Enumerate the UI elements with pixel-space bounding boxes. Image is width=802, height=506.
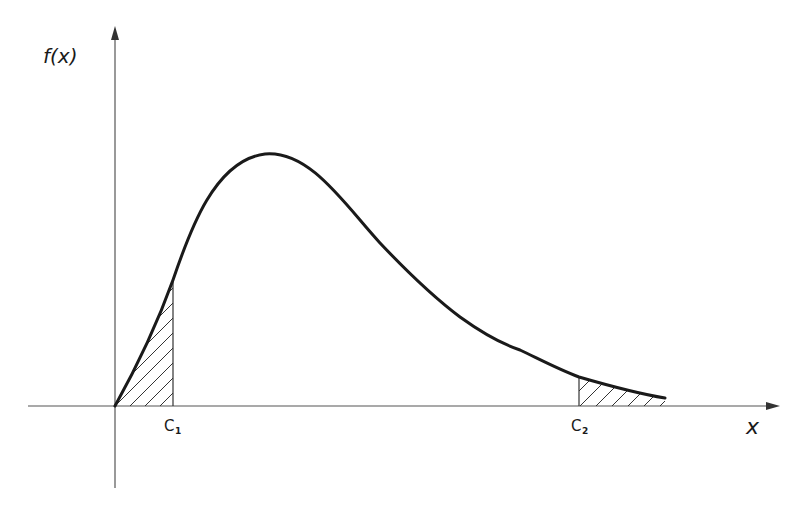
svg-text:1: 1 — [175, 426, 181, 436]
svg-text:C: C — [164, 417, 174, 435]
y-axis-label: f(x) — [43, 44, 77, 68]
x-axis — [28, 402, 780, 410]
y-axis — [111, 26, 119, 488]
c2-label: C 2 — [571, 417, 588, 436]
x-axis-label: x — [745, 414, 760, 439]
svg-text:C: C — [571, 417, 581, 435]
density-curve — [115, 154, 665, 406]
c1-label: C 1 — [164, 417, 181, 436]
y-axis-arrow-icon — [111, 26, 119, 40]
svg-text:2: 2 — [582, 426, 588, 436]
density-diagram: f(x) x C 1 C 2 — [0, 0, 802, 506]
x-axis-arrow-icon — [766, 402, 780, 410]
left-tail-shading — [25, 280, 280, 406]
